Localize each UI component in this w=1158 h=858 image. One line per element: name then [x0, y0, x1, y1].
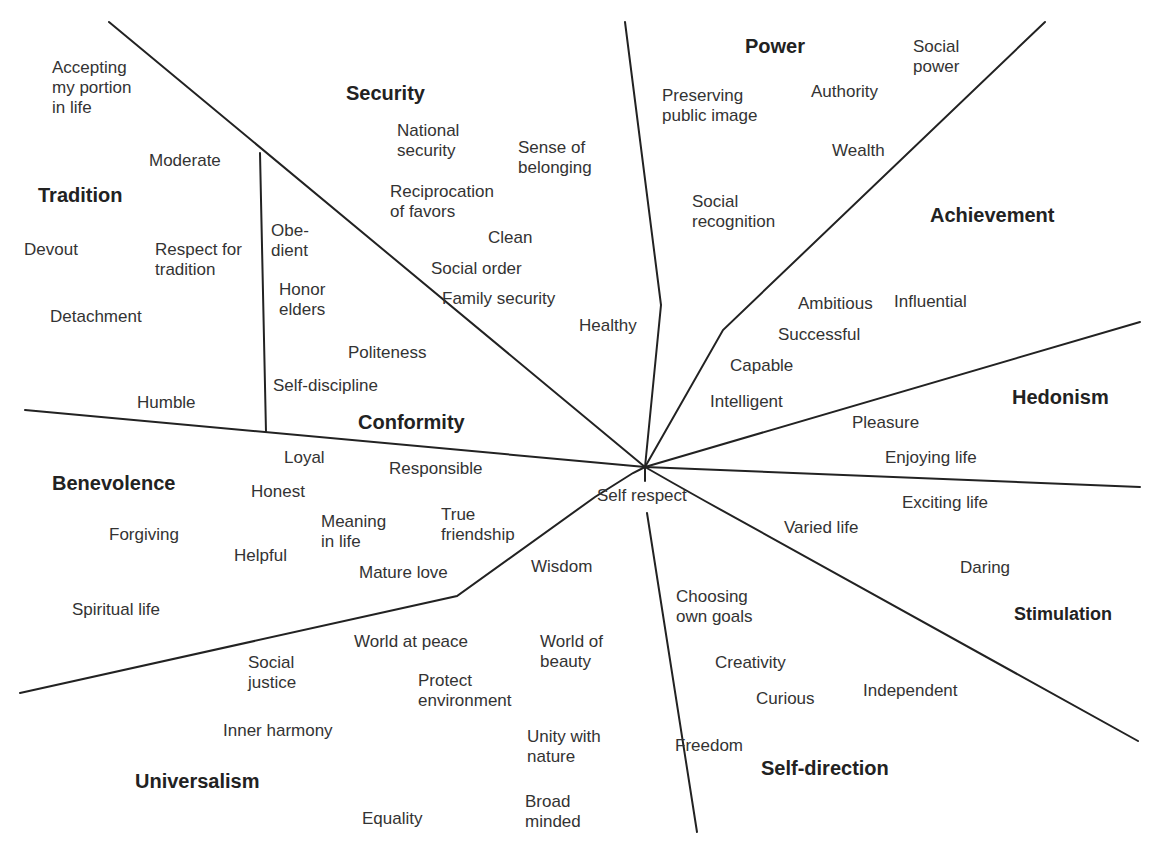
value-item: Influential — [894, 292, 967, 312]
value-item: Curious — [756, 689, 815, 709]
value-item: Freedom — [675, 736, 743, 756]
value-item: Accepting my portion in life — [52, 58, 131, 118]
value-item: Honest — [251, 482, 305, 502]
value-item: Sense of belonging — [518, 138, 592, 178]
value-item: Pleasure — [852, 413, 919, 433]
value-item: Equality — [362, 809, 422, 829]
value-item: Healthy — [579, 316, 637, 336]
value-item: Social power — [913, 37, 959, 77]
value-item: Devout — [24, 240, 78, 260]
value-item: World at peace — [354, 632, 468, 652]
value-item: Responsible — [389, 459, 483, 479]
category-hedonism: Hedonism — [1012, 386, 1109, 409]
value-item: Forgiving — [109, 525, 179, 545]
value-item: Protect environment — [418, 671, 512, 711]
value-item: Reciprocation of favors — [390, 182, 494, 222]
value-item: Humble — [137, 393, 196, 413]
value-item: Authority — [811, 82, 878, 102]
divider-hedonism-stimulation — [645, 467, 1140, 487]
divider-benevolence-conformity — [25, 410, 645, 467]
value-item: Choosing own goals — [676, 587, 753, 627]
value-item: Exciting life — [902, 493, 988, 513]
value-item: Social justice — [248, 653, 296, 693]
value-item: Spiritual life — [72, 600, 160, 620]
category-power: Power — [745, 35, 805, 58]
value-item: Inner harmony — [223, 721, 333, 741]
category-tradition: Tradition — [38, 184, 122, 207]
value-item: Helpful — [234, 546, 287, 566]
value-item: True friendship — [441, 505, 515, 545]
value-item: Ambitious — [798, 294, 873, 314]
value-item: Detachment — [50, 307, 142, 327]
value-item: Capable — [730, 356, 793, 376]
value-item: Wealth — [832, 141, 885, 161]
value-item: World of beauty — [540, 632, 603, 672]
category-conformity: Conformity — [358, 411, 465, 434]
category-achievement: Achievement — [930, 204, 1055, 227]
value-item: Social order — [431, 259, 522, 279]
value-item: Social recognition — [692, 192, 775, 232]
value-item: Clean — [488, 228, 532, 248]
value-item: Mature love — [359, 563, 448, 583]
value-item: Self-discipline — [273, 376, 378, 396]
value-item: Creativity — [715, 653, 786, 673]
value-item: Moderate — [149, 151, 221, 171]
value-item: Independent — [863, 681, 958, 701]
value-item: Wisdom — [531, 557, 592, 577]
value-item: Loyal — [284, 448, 325, 468]
divider-selfdirection-universalism — [647, 513, 697, 832]
value-item: Successful — [778, 325, 860, 345]
value-item: Varied life — [784, 518, 858, 538]
category-universalism: Universalism — [135, 770, 260, 793]
value-item: National security — [397, 121, 459, 161]
category-self-direction: Self-direction — [761, 757, 889, 780]
category-stimulation: Stimulation — [1014, 604, 1112, 625]
divider-tradition-conformity — [260, 153, 266, 432]
value-item: Daring — [960, 558, 1010, 578]
divider-security-power — [625, 22, 661, 467]
value-item: Broad minded — [525, 792, 581, 832]
value-item: Family security — [442, 289, 555, 309]
value-item: Obe- dient — [271, 221, 309, 261]
value-item: Enjoying life — [885, 448, 977, 468]
value-item: Preserving public image — [662, 86, 757, 126]
value-item: Meaning in life — [321, 512, 386, 552]
value-item: Unity with nature — [527, 727, 601, 767]
category-security: Security — [346, 82, 425, 105]
value-item: Politeness — [348, 343, 426, 363]
category-benevolence: Benevolence — [52, 472, 175, 495]
value-item: Respect for tradition — [155, 240, 242, 280]
value-item: Intelligent — [710, 392, 783, 412]
value-self-respect: Self respect — [597, 486, 687, 506]
value-item: Honor elders — [279, 280, 325, 320]
